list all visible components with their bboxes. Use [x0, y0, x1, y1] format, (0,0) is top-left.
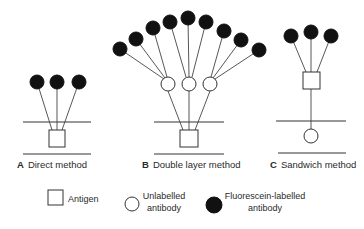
antibody-link: [62, 82, 79, 130]
labelled-antibody-icon: [284, 29, 298, 43]
legend-antigen-icon: [48, 190, 63, 205]
labelled-antibody-icon: [72, 75, 86, 89]
labelled-antibody-icon: [234, 33, 248, 47]
antibody-link: [215, 50, 259, 79]
antibody-link: [170, 22, 186, 77]
unlabelled-antibody-icon: [203, 77, 217, 91]
antibody-link: [195, 91, 210, 130]
antigen-square: [303, 72, 320, 89]
unlabelled-antibody-icon: [182, 77, 196, 91]
antibody-link: [153, 28, 167, 77]
antibody-link: [120, 49, 164, 79]
panel-b-double-layer: BDouble layer method: [113, 11, 266, 170]
labelled-antibody-icon: [50, 75, 64, 89]
immunofluorescence-diagram: ADirect method BDouble layer me: [0, 0, 364, 229]
legend-unlabelled-label-line2: antibody: [147, 203, 182, 213]
legend-labelled-antibody-icon: [206, 197, 222, 213]
legend-fluorescein-label-line2: antibody: [248, 203, 283, 213]
unlabelled-antibody-icon: [304, 129, 318, 143]
antibody-link: [192, 22, 206, 77]
antigen-square: [180, 130, 198, 147]
antibody-link: [168, 91, 183, 130]
legend-unlabelled-antibody-icon: [125, 197, 139, 211]
labelled-antibody-icon: [252, 43, 266, 57]
legend-antigen-label: Antigen: [68, 194, 99, 204]
labelled-antibody-icon: [324, 29, 338, 43]
labelled-antibody-icon: [30, 75, 44, 89]
legend-fluorescein-label-line1: Fluorescein-labelled: [225, 191, 306, 201]
panel-a-direct: ADirect method: [17, 75, 91, 170]
legend-unlabelled-label-line1: Unlabelled: [143, 191, 186, 201]
unlabelled-antibody-icon: [161, 77, 175, 91]
labelled-antibody-icon: [181, 11, 195, 25]
antibody-link: [188, 18, 189, 77]
panel-a-label: ADirect method: [17, 159, 87, 170]
legend: Antigen Unlabelled antibody Fluorescein-…: [48, 190, 305, 213]
panel-c-sandwich: CSandwich method: [270, 25, 356, 170]
labelled-antibody-icon: [113, 42, 127, 56]
antibody-link: [37, 82, 52, 130]
labelled-antibody-icon: [199, 15, 213, 29]
labelled-antibody-icon: [163, 15, 177, 29]
labelled-antibody-icon: [217, 24, 231, 38]
labelled-antibody-icon: [304, 25, 318, 39]
panel-b-label: BDouble layer method: [142, 159, 241, 170]
antigen-square: [49, 130, 65, 147]
labelled-antibody-icon: [146, 21, 160, 35]
panel-c-label: CSandwich method: [270, 159, 356, 170]
labelled-antibody-icon: [129, 32, 143, 46]
